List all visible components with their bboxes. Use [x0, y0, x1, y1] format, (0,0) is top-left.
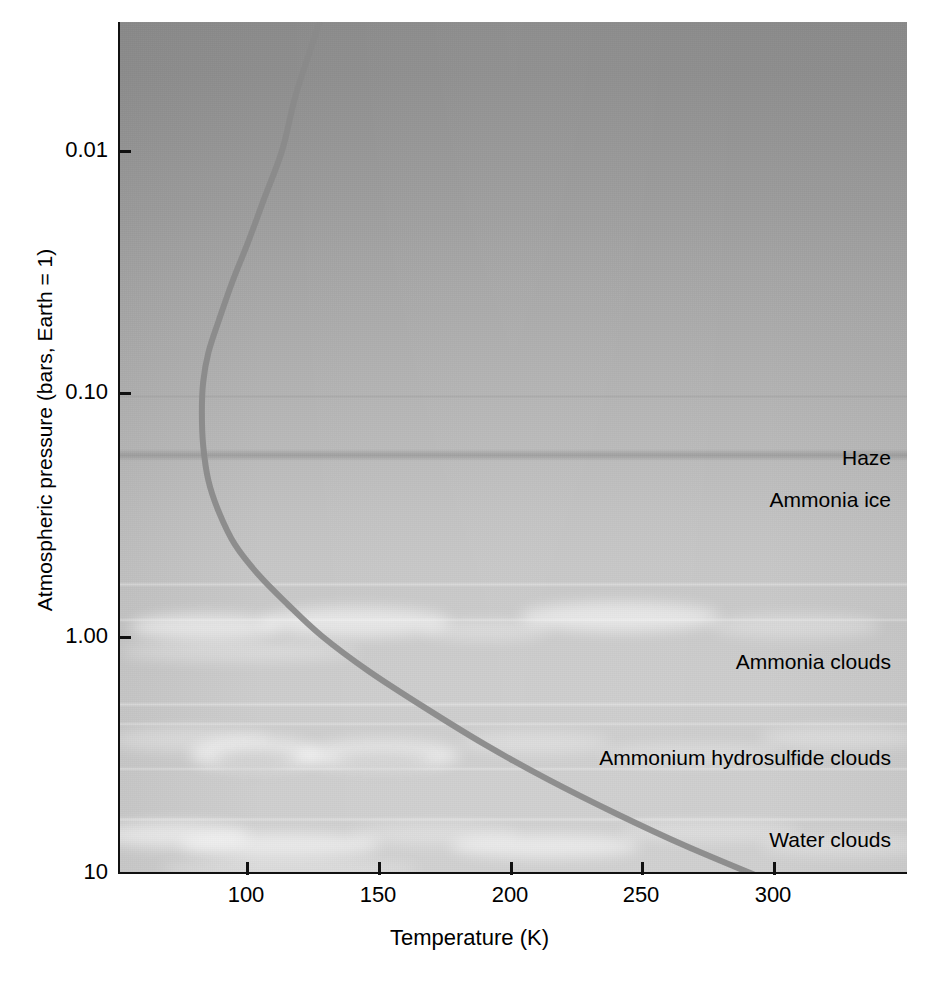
x-tick-label-300: 300 — [755, 882, 792, 908]
x-tick-mark-100 — [246, 862, 249, 875]
layer-label-water-clouds: Water clouds — [769, 828, 891, 852]
x-tick-label-200: 200 — [492, 882, 529, 908]
y-tick-mark-010 — [118, 392, 131, 395]
x-tick-label-100: 100 — [228, 882, 265, 908]
atmosphere-temperature-pressure-figure: Haze Ammonia ice Ammonia clouds Ammonium… — [0, 0, 939, 982]
x-tick-label-150: 150 — [360, 882, 397, 908]
y-tick-label-10: 10 — [0, 859, 108, 885]
x-axis-title: Temperature (K) — [0, 925, 939, 951]
layer-label-ammonium-hydrosulfide-clouds: Ammonium hydrosulfide clouds — [599, 746, 891, 770]
temperature-profile-curve-layer — [120, 22, 907, 872]
y-tick-mark-100 — [118, 636, 131, 639]
x-tick-label-250: 250 — [623, 882, 660, 908]
layer-label-ammonia-ice: Ammonia ice — [770, 488, 891, 512]
layer-label-ammonia-clouds: Ammonia clouds — [736, 650, 891, 674]
x-tick-mark-250 — [641, 862, 644, 875]
layer-label-haze: Haze — [842, 446, 891, 470]
x-tick-mark-150 — [378, 862, 381, 875]
y-axis-title: Atmospheric pressure (bars, Earth = 1) — [33, 150, 57, 710]
x-tick-mark-300 — [773, 862, 776, 875]
y-tick-mark-001 — [118, 150, 131, 153]
plot-area: Haze Ammonia ice Ammonia clouds Ammonium… — [118, 22, 907, 874]
temperature-profile-curve — [202, 22, 765, 872]
x-tick-mark-200 — [510, 862, 513, 875]
